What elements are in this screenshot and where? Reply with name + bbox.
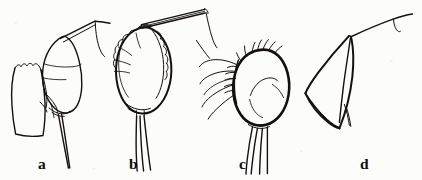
panel-d-tail-process <box>346 107 350 126</box>
panel-d-cone-right-edge <box>339 38 353 128</box>
panel-a-apex-to-right <box>95 21 110 23</box>
panel-b-inner-contour <box>119 41 129 98</box>
panel-a-lobe-serration <box>27 63 33 65</box>
panel-d-rim-ellipse <box>305 93 339 128</box>
panel-c-internal-fold <box>250 99 263 117</box>
panel-label-a: a <box>38 156 46 172</box>
panel-b-margin-crenulation-right <box>165 72 167 80</box>
panel-b-marginal-seta <box>136 33 140 48</box>
panel-b-apodeme-rod-inner <box>143 11 205 26</box>
panel-label-d: d <box>360 156 369 172</box>
panel-c-long-wavy-seta <box>202 84 235 107</box>
panel-a-oval-lobe-outline <box>42 36 81 113</box>
panel-a-apical-seta-curve <box>95 22 104 56</box>
panel-a-apical-ridge-lower <box>63 25 95 42</box>
panel-a-oval-inner-line <box>44 64 81 67</box>
panel-c-flank-bristle <box>226 72 235 74</box>
panel-d-apodeme-line <box>350 14 412 37</box>
panel-b-apodeme-rod <box>142 13 205 28</box>
panel-b-long-basal-seta <box>144 115 151 170</box>
figure-drawing-svg <box>0 0 422 180</box>
panel-a-lobe-serration <box>33 64 39 66</box>
panel-d-drawing <box>305 14 412 128</box>
panel-c-long-wavy-seta <box>199 60 236 67</box>
panel-a-lobe-serration <box>15 65 21 68</box>
panel-b-margin-crenulation <box>115 45 118 52</box>
panel-b-drawing <box>113 9 217 171</box>
panel-d-cone-left-edge <box>305 36 348 93</box>
panel-b-marginal-seta <box>118 47 131 55</box>
panel-a-lobe-serration <box>39 66 41 70</box>
panel-d-apodeme-hook <box>393 19 400 32</box>
panel-a-lobe-serration <box>21 64 27 67</box>
panel-c-bristle <box>245 46 247 56</box>
panel-b-margin-crenulation-right <box>164 47 167 55</box>
panel-b-margin-crenulation <box>114 52 116 59</box>
panel-c-upper-left-seta <box>196 40 209 58</box>
panel-b-terminal-seta <box>206 12 217 47</box>
panel-c-flank-bristle <box>227 66 236 67</box>
panel-b-margin-crenulation-right <box>166 63 168 71</box>
panel-label-b: b <box>129 156 138 172</box>
panel-c-long-wavy-seta <box>204 78 236 94</box>
panel-b-margin-crenulation-right <box>166 55 168 63</box>
panel-b-inner-contour <box>152 31 163 99</box>
panel-b-basal-band-divider <box>144 110 145 115</box>
panel-c-long-basal-seta <box>260 128 263 174</box>
figure-plate: a b c d <box>0 0 422 180</box>
panel-a-drawing <box>12 21 110 168</box>
panel-label-c: c <box>239 156 246 172</box>
panel-c-bristle <box>263 40 268 50</box>
panel-b-long-basal-seta <box>140 116 144 171</box>
panel-c-long-basal-seta <box>251 128 257 174</box>
panel-c-bristle <box>269 42 276 51</box>
panel-c-bristle <box>274 46 282 53</box>
panel-c-internal-fold <box>250 78 277 95</box>
panel-a-apical-ridge-upper <box>61 21 95 38</box>
panel-d-cone-lower-edge <box>305 93 339 128</box>
panel-a-oval-inner-line <box>44 78 66 80</box>
panel-d-rim-inner <box>307 96 340 128</box>
panel-c-internal-fold <box>272 84 283 97</box>
panel-b-apodeme-rod <box>141 9 204 24</box>
panel-b-margin-crenulation <box>113 60 114 67</box>
panel-c-drawing <box>196 40 289 174</box>
panel-c-long-wavy-seta <box>208 95 234 119</box>
